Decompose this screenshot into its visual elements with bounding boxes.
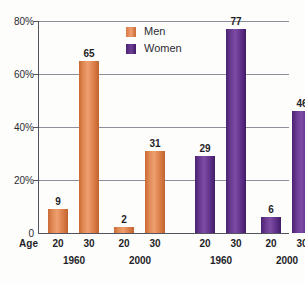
- x-group-label-men-2000: 2000: [129, 255, 151, 266]
- bar-group-men-1960-20[interactable]: 9: [48, 21, 68, 233]
- x-axis-age-label: Age: [6, 238, 38, 249]
- bar-men-1960-age20[interactable]: [48, 209, 68, 233]
- legend-label-women: Women: [144, 43, 182, 54]
- y-tick-label-80: 80%: [4, 16, 34, 27]
- bar-men-2000-age20[interactable]: [114, 227, 134, 233]
- bar-group-women-1960-30[interactable]: 77: [226, 21, 246, 233]
- x-tick-men-1960-30: 30: [83, 238, 94, 249]
- bar-value-label: 65: [83, 48, 94, 59]
- bar-men-2000-age30[interactable]: [145, 151, 165, 233]
- y-tick-label-20: 20%: [4, 175, 34, 186]
- bar-group-men-1960-30[interactable]: 65: [79, 21, 99, 233]
- bar-value-label: 31: [149, 138, 160, 149]
- legend-item-women[interactable]: Women: [126, 40, 182, 57]
- bar-women-2000-age30[interactable]: [292, 111, 305, 233]
- bar-value-label: 2: [121, 214, 127, 225]
- x-tick-men-2000-30: 30: [149, 238, 160, 249]
- legend-item-men[interactable]: Men: [126, 23, 182, 40]
- x-tick-women-1960-30: 30: [230, 238, 241, 249]
- bar-men-1960-age30[interactable]: [79, 61, 99, 233]
- bar-value-label: 6: [268, 204, 274, 215]
- bar-group-women-2000-20[interactable]: 6: [261, 21, 281, 233]
- legend-swatch-women-icon: [126, 44, 136, 54]
- x-tick-women-2000-20: 20: [265, 238, 276, 249]
- bar-group-women-1960-20[interactable]: 29: [195, 21, 215, 233]
- legend: Men Women: [126, 23, 182, 57]
- bar-women-1960-age20[interactable]: [195, 156, 215, 233]
- legend-swatch-men-icon: [126, 27, 136, 37]
- x-tick-women-1960-20: 20: [199, 238, 210, 249]
- bar-chart: 0 20% 40% 60% 80% 9 65 2 31: [0, 0, 305, 283]
- x-axis-labels: Age 20 30 20 30 20 30 20 30 1960 2000 19…: [0, 237, 305, 283]
- bar-value-label: 29: [199, 143, 210, 154]
- legend-label-men: Men: [144, 26, 165, 37]
- y-tick-label-40: 40%: [4, 122, 34, 133]
- bar-value-label: 77: [230, 16, 241, 27]
- x-group-label-women-1960: 1960: [210, 255, 232, 266]
- bar-group-women-2000-30[interactable]: 46: [292, 21, 305, 233]
- x-tick-men-2000-20: 20: [118, 238, 129, 249]
- bar-value-label: 9: [55, 196, 61, 207]
- bar-value-label: 46: [296, 98, 305, 109]
- x-tick-women-2000-30: 30: [296, 238, 305, 249]
- bar-women-1960-age30[interactable]: [226, 29, 246, 233]
- x-group-label-men-1960: 1960: [63, 255, 85, 266]
- x-tick-men-1960-20: 20: [52, 238, 63, 249]
- x-group-label-women-2000: 2000: [276, 255, 298, 266]
- x-axis-line: [38, 233, 289, 234]
- y-tick-label-60: 60%: [4, 69, 34, 80]
- bar-women-2000-age20[interactable]: [261, 217, 281, 233]
